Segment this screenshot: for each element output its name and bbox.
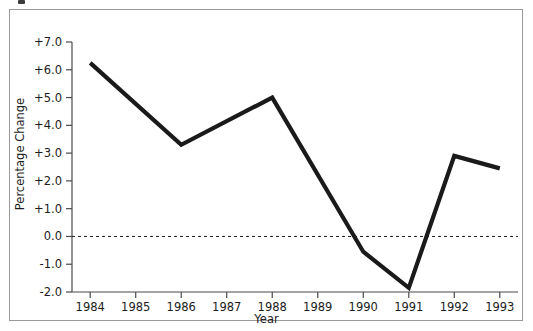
y-tick-label: +6.0 xyxy=(20,64,62,76)
x-axis-title: Year xyxy=(0,312,533,326)
y-tick-label: -2.0 xyxy=(20,286,62,298)
figure-container: +7.0+6.0+5.0+4.0+3.0+2.0+1.00.0-1.0-2.0 … xyxy=(0,0,533,331)
y-tick-label: +7.0 xyxy=(20,36,62,48)
x-axis-ticks xyxy=(90,292,500,298)
y-axis-ticks xyxy=(66,42,72,292)
y-tick-label: 0.0 xyxy=(20,230,62,242)
y-tick-label: -1.0 xyxy=(20,258,62,270)
y-axis-title: Percentage Change xyxy=(13,94,27,214)
data-series-line xyxy=(90,63,500,288)
line-chart-plot xyxy=(0,0,533,331)
